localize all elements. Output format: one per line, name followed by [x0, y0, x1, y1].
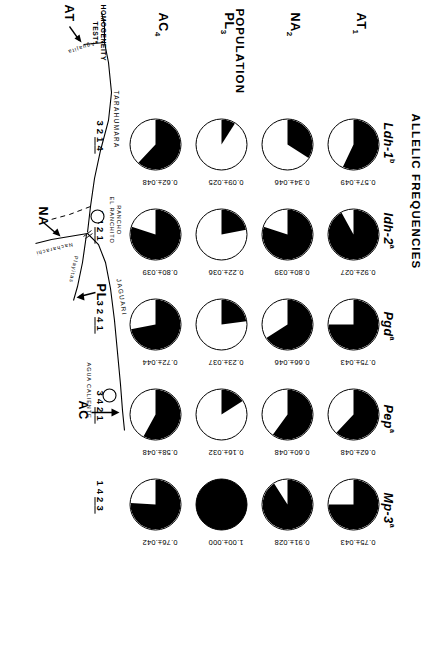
pie-wedge — [328, 479, 378, 529]
population-label-ac4: AC4 — [153, 12, 170, 36]
population-code: NA — [287, 12, 301, 31]
pie-wedge — [328, 389, 378, 439]
pie-wedge — [130, 299, 180, 349]
map-label-at: AT — [61, 4, 75, 21]
locus-name: Mp-3 — [381, 492, 395, 523]
pie-wedge — [130, 389, 180, 439]
locus-name: Pgd — [381, 311, 395, 336]
pie-wedge — [262, 299, 312, 349]
map-drawing — [0, 0, 131, 657]
population-code: AT — [353, 12, 367, 29]
freq-label-ac4-pgd: 0.72±.044 — [142, 357, 177, 366]
pie-na2-pgd — [261, 298, 313, 350]
population-label-pl3: PL3 — [219, 12, 236, 34]
locus-header-pgd: Pgda — [381, 311, 395, 341]
pie-ac4-idh2 — [129, 208, 181, 260]
locus-name: Idh-2 — [381, 212, 395, 244]
freq-label-ac4-pep: 0.58±.048 — [142, 447, 177, 456]
pie-at1-pgd — [327, 298, 379, 350]
pie-na2-ldh1 — [261, 118, 313, 170]
locus-superscript: a — [388, 428, 395, 432]
freq-label-na2-pgd: 0.66±.046 — [274, 357, 309, 366]
population-index: 2 — [285, 31, 294, 36]
pie-at1-pep — [327, 388, 379, 440]
river-dashed-path — [47, 206, 90, 220]
pie-wedge — [196, 299, 246, 349]
pie-at1-mp3 — [327, 478, 379, 530]
population-index: 4 — [153, 31, 162, 36]
pie-na2-pep — [261, 388, 313, 440]
freq-label-at1-pgd: 0.75±.043 — [340, 357, 375, 366]
pie-wedge — [262, 119, 312, 169]
freq-label-at1-mp3: 0.75±.043 — [340, 537, 375, 546]
locus-header-ldh-1: Ldh-1b — [381, 122, 395, 163]
pie-at1-ldh1 — [327, 118, 379, 170]
freq-label-pl3-ldh1: 0.09±.025 — [208, 177, 243, 186]
population-label-na2: NA2 — [285, 12, 302, 36]
population-code: AC — [155, 12, 169, 31]
population-code: PL — [221, 12, 235, 29]
map-river-label-tarahumara: TARAHUMARA — [112, 90, 119, 148]
pie-wedge — [196, 209, 246, 259]
locus-superscript: a — [388, 244, 395, 248]
pie-pl3-pep — [195, 388, 247, 440]
pie-wedge — [328, 119, 378, 169]
freq-label-pl3-pep: 0.16±.032 — [208, 447, 243, 456]
freq-label-ac4-idh2: 0.80±.039 — [142, 267, 177, 276]
locus-superscript: b — [388, 159, 395, 164]
pl-arrow-head — [76, 292, 84, 300]
freq-label-na2-idh2: 0.80±.039 — [274, 267, 309, 276]
freq-label-na2-pep: 0.60±.048 — [274, 447, 309, 456]
pie-pl3-pgd — [195, 298, 247, 350]
locus-name: Pep — [381, 404, 395, 428]
freq-label-ac4-mp3: 0.76±.042 — [142, 537, 177, 546]
pie-ac4-pgd — [129, 298, 181, 350]
rancho-line1: RANCHO — [114, 196, 121, 243]
pie-wedge — [328, 209, 378, 259]
pie-wedge — [196, 119, 246, 169]
freq-label-ac4-ldh1: 0.62±.048 — [142, 177, 177, 186]
pie-at1-idh2 — [327, 208, 379, 260]
locus-superscript: a — [388, 336, 395, 340]
freq-label-at1-idh2: 0.92±.027 — [340, 267, 375, 276]
pie-wedge — [130, 479, 180, 529]
locus-header-mp-3: Mp-3a — [381, 492, 395, 528]
population-index: 1 — [351, 29, 360, 34]
ac-arrow-head — [111, 408, 119, 416]
town-marker-rancho-el-ranchito — [91, 210, 104, 223]
pie-na2-idh2 — [261, 208, 313, 260]
freq-label-at1-ldh1: 0.57±.049 — [340, 177, 375, 186]
pie-wedge — [328, 299, 378, 349]
pie-wedge — [130, 209, 180, 259]
map-label-na: NA — [35, 206, 49, 226]
rancho-line2: EL RANCHITO — [107, 196, 114, 243]
map-place-label-agua-caliente: AGUA CALIENTE — [84, 362, 91, 418]
freq-label-pl3-pgd: 0.23±.037 — [208, 357, 243, 366]
map-place-label-rancho-el-ranchito: RANCHO EL RANCHITO — [107, 196, 121, 243]
locus-header-idh-2: Idh-2a — [381, 212, 395, 249]
figure-page: ALLELIC FREQUENCIES POPULATION Ldh-1b Id… — [0, 0, 431, 657]
town-marker-agua-caliente — [103, 389, 116, 402]
population-index: 3 — [219, 29, 228, 34]
population-label-at1: AT1 — [351, 12, 368, 34]
pie-pl3-ldh1 — [195, 118, 247, 170]
freq-label-na2-mp3: 0.91±.028 — [274, 537, 309, 546]
pie-wedge — [262, 209, 312, 259]
pie-wedge — [130, 119, 180, 169]
pie-wedge — [262, 479, 312, 529]
pie-na2-mp3 — [261, 478, 313, 530]
location-map: AT NA PL AC TARAHUMARA JAGUARI Aguajita … — [0, 0, 131, 657]
pie-ac4-mp3 — [129, 478, 181, 530]
figure-canvas: ALLELIC FREQUENCIES POPULATION Ldh-1b Id… — [0, 0, 431, 657]
pie-ac4-pep — [129, 388, 181, 440]
freq-label-pl3-idh2: 0.22±.036 — [208, 267, 243, 276]
river-nacharachi-path — [35, 233, 87, 243]
pie-wedge — [262, 389, 312, 439]
freq-label-pl3-mp3: 1.00±.000 — [208, 537, 243, 546]
freq-label-na2-ldh1: 0.34±.046 — [274, 177, 309, 186]
na-arrow-head — [52, 228, 60, 236]
locus-superscript: a — [388, 523, 395, 527]
pie-wedge — [196, 389, 246, 439]
locus-header-pep: Pepa — [381, 404, 395, 433]
locus-name: Ldh-1 — [381, 122, 395, 159]
